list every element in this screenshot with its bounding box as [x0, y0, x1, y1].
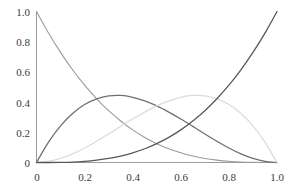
- chart-figure: 1.0 0.8 0.6 0.4 0.2 0 0 0.2 0.4 0.6 0.8 …: [0, 0, 299, 191]
- x-tick-label-0.8: 0.8: [209, 172, 249, 183]
- x-tick-label-0.6: 0.6: [161, 172, 201, 183]
- x-tick-label-0.2: 0.2: [65, 172, 105, 183]
- y-tick-label-0: 0: [0, 158, 30, 169]
- series-line-2: [37, 95, 278, 162]
- y-tick-label-0.2: 0.2: [0, 128, 30, 139]
- axis-spines: [37, 11, 278, 163]
- x-tick-label-0.4: 0.4: [113, 172, 153, 183]
- y-tick-label-0.4: 0.4: [0, 98, 30, 109]
- y-tick-label-0.8: 0.8: [0, 37, 30, 48]
- series-line-3: [37, 12, 278, 163]
- y-tick-label-0.6: 0.6: [0, 67, 30, 78]
- curve-group: [37, 12, 278, 163]
- plot-area: [0, 0, 299, 191]
- series-line-0: [37, 12, 278, 163]
- x-tick-label-0: 0: [17, 172, 57, 183]
- x-tick-label-1.0: 1.0: [257, 172, 297, 183]
- y-tick-label-1.0: 1.0: [0, 7, 30, 18]
